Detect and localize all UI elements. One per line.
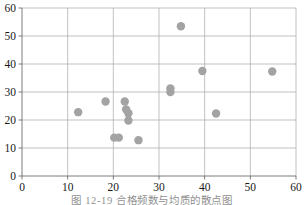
data-point — [134, 136, 142, 144]
y-axis-ticks: 0102030405060 — [5, 2, 23, 182]
y-tick-label: 30 — [5, 86, 17, 98]
x-tick-label: 30 — [153, 181, 165, 193]
x-tick-label: 10 — [62, 181, 74, 193]
scatter-plot: 01020304050600102030405060 — [0, 0, 304, 205]
grid-lines — [22, 8, 296, 176]
data-point — [115, 133, 123, 141]
y-tick-label: 0 — [10, 170, 16, 182]
data-point — [166, 88, 174, 96]
x-tick-label: 60 — [290, 181, 302, 193]
data-point — [212, 109, 220, 117]
y-tick-label: 10 — [5, 142, 17, 154]
y-tick-label: 40 — [5, 58, 17, 70]
data-point — [74, 108, 82, 116]
y-tick-label: 20 — [5, 114, 17, 126]
y-tick-label: 50 — [5, 30, 17, 42]
data-point-series — [74, 22, 276, 144]
figure-container: 01020304050600102030405060 图 12-19 合格频数与… — [0, 0, 304, 205]
data-point — [101, 97, 109, 105]
data-point — [124, 116, 132, 124]
x-axis-ticks: 0102030405060 — [19, 176, 302, 193]
y-tick-label: 60 — [5, 2, 17, 14]
data-point — [268, 67, 276, 75]
x-tick-label: 50 — [245, 181, 257, 193]
x-tick-label: 20 — [108, 181, 120, 193]
figure-caption: 图 12-19 合格频数与均质的散点图 — [0, 192, 304, 205]
data-point — [121, 97, 129, 105]
x-tick-label: 40 — [199, 181, 211, 193]
data-point — [177, 22, 185, 30]
data-point — [124, 109, 132, 117]
x-tick-label: 0 — [19, 181, 25, 193]
data-point — [198, 67, 206, 75]
